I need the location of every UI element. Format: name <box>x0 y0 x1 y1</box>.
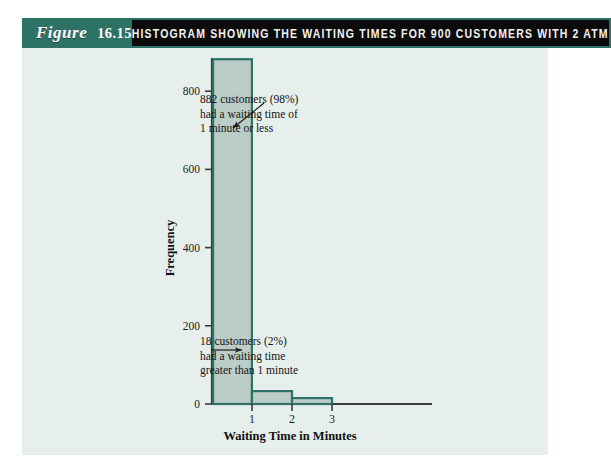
annotation-upper-text: 882 customers (98%) had a waiting time o… <box>200 92 298 136</box>
y-axis-title: Frequency <box>163 219 177 276</box>
y-tick-label-0: 0 <box>194 398 200 410</box>
y-tick-label-200: 200 <box>183 320 201 332</box>
figure-number: 16.15 <box>97 25 132 42</box>
annotation-lower-line3: greater than 1 minute <box>200 363 298 378</box>
annotation-upper-line3: 1 minute or less <box>200 121 298 136</box>
figure-title: HISTOGRAM SHOWING THE WAITING TIMES FOR … <box>132 26 609 40</box>
histogram-bar-2-3 <box>292 398 332 404</box>
x-tick-label-2: 2 <box>289 412 295 426</box>
figure-header: Figure 16.15 HISTOGRAM SHOWING THE WAITI… <box>22 18 548 48</box>
histogram-bar-1-2 <box>252 391 292 404</box>
figure-title-band: HISTOGRAM SHOWING THE WAITING TIMES FOR … <box>132 18 611 48</box>
chart-plot-area: 0 200 400 600 800 Frequency 1 2 3 Waitin… <box>22 48 548 455</box>
y-tick-label-600: 600 <box>183 163 201 175</box>
y-tick-label-800: 800 <box>183 85 201 97</box>
annotation-lower-line2: had a waiting time <box>200 349 298 364</box>
annotation-lower-line1: 18 customers (2%) <box>200 334 298 349</box>
figure-tag: Figure 16.15 <box>22 18 132 48</box>
annotation-upper-line1: 882 customers (98%) <box>200 92 298 107</box>
x-tick-label-1: 1 <box>249 412 255 426</box>
annotation-lower-text: 18 customers (2%) had a waiting time gre… <box>200 334 298 378</box>
y-tick-label-400: 400 <box>183 242 201 254</box>
figure-word: Figure <box>36 23 87 43</box>
x-tick-label-3: 3 <box>329 412 335 426</box>
annotation-upper-line2: had a waiting time of <box>200 107 298 122</box>
x-axis-title: Waiting Time in Minutes <box>223 429 356 443</box>
